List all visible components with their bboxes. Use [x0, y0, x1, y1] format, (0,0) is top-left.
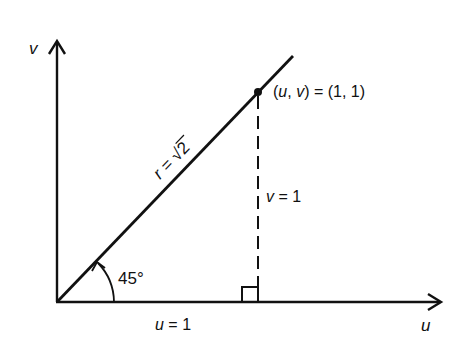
point-marker — [254, 88, 262, 96]
svg-text:r = √2: r = √2 — [149, 138, 193, 183]
angle-arc — [98, 263, 114, 302]
point-label: (u, v) = (1, 1) — [273, 83, 365, 100]
horizontal-leg-label: u = 1 — [155, 316, 191, 333]
u-axis-label: u — [421, 316, 431, 335]
right-angle-marker-icon — [242, 287, 258, 302]
angle-label: 45° — [118, 269, 144, 288]
vertical-leg-label: v = 1 — [266, 188, 301, 205]
v-axis — [49, 41, 65, 302]
polar-coordinate-diagram: v u r = √2 (u, v) = (1, 1) (u, v) = (1, … — [0, 0, 460, 360]
v-axis-label: v — [29, 39, 39, 58]
radius-label: r = √2 — [149, 134, 197, 182]
